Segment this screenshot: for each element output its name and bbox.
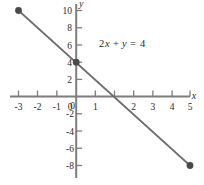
- equation-coefficient: 2: [99, 38, 104, 49]
- x-tick-label-1-slot: 1: [93, 102, 98, 112]
- figure-background: [0, 0, 204, 185]
- y-tick-label-6: 6: [67, 41, 72, 51]
- x-tick-label-4: 4: [170, 102, 175, 112]
- x-tick-label-2: 2: [131, 102, 136, 112]
- x-tick-label-3: 3: [151, 102, 156, 112]
- x-tick-label--2: -2: [34, 102, 42, 112]
- y-tick-label-8: 8: [67, 23, 72, 33]
- equation-variable-y: y: [121, 38, 127, 49]
- x-axis-label: x: [191, 90, 197, 101]
- y-tick-label--2: -2: [66, 109, 74, 119]
- equation-equals-sign: =: [130, 38, 136, 49]
- y-tick-label-10: 10: [63, 6, 73, 16]
- graph-figure: -3 -2 -1 0 2 3 4 5 1 10 8 6 4 2 0 -2 -4 …: [0, 0, 204, 185]
- y-tick-label--4: -4: [66, 127, 74, 137]
- equation-plus-sign: +: [113, 38, 119, 49]
- y-tick-label--8: -8: [66, 161, 74, 171]
- coordinate-plane-svg: -3 -2 -1 0 2 3 4 5 1 10 8 6 4 2 0 -2 -4 …: [0, 0, 204, 185]
- data-point-left-endpoint: [15, 7, 22, 14]
- x-tick-label--3: -3: [15, 102, 23, 112]
- y-tick-label--6: -6: [66, 144, 74, 154]
- y-tick-label-4: 4: [67, 58, 72, 68]
- y-axis-label: y: [78, 0, 84, 9]
- x-tick-label-5: 5: [188, 102, 193, 112]
- y-tick-label-2: 2: [67, 75, 72, 85]
- data-point-right-endpoint: [187, 162, 194, 169]
- x-tick-labels-extra: 1: [93, 102, 98, 112]
- data-point-y-intercept: [73, 59, 80, 66]
- equation-variable-x: x: [104, 38, 110, 49]
- equation-right-hand-side: 4: [140, 38, 146, 49]
- x-tick-label--1: -1: [53, 102, 61, 112]
